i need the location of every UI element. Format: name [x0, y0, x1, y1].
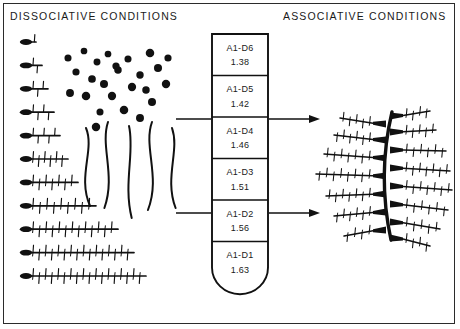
arm-bristle	[421, 144, 422, 150]
arm-bristle	[357, 208, 358, 214]
arm-head	[373, 209, 386, 216]
arm-bristle	[406, 109, 407, 115]
arm-bristle	[344, 130, 345, 136]
arm-head	[390, 183, 403, 190]
arm-bristle	[407, 199, 408, 205]
arm-bristle	[435, 183, 436, 189]
rod-side-projection	[46, 175, 47, 182]
rod-side-projection	[62, 159, 63, 166]
arm-bristle	[341, 169, 342, 175]
rod-side-projection	[85, 222, 86, 229]
arm-bristle	[407, 144, 408, 150]
smooth-filament-group	[85, 122, 175, 218]
arm-bristle	[357, 114, 358, 120]
rod-side-projection	[82, 206, 83, 213]
rod-side-projection	[45, 152, 46, 159]
arm-bristle	[422, 220, 423, 226]
arm-bristle	[370, 207, 371, 213]
rod-side-projection	[127, 253, 128, 260]
arm-head	[373, 121, 386, 128]
monomer-dot	[82, 92, 91, 101]
arm-bristle	[447, 165, 448, 171]
rod-side-projection	[33, 269, 34, 276]
rod-side-projection	[61, 198, 62, 205]
heading-dissociative: DISSOCIATIVE CONDITIONS	[10, 10, 178, 22]
monomer-dot	[154, 64, 162, 72]
tube-fraction-label: A1-D3	[226, 167, 253, 177]
arm-bristle	[342, 149, 343, 155]
subunit-rod	[20, 35, 36, 45]
rod-side-projection	[77, 253, 78, 260]
monomer-dot	[100, 80, 108, 88]
rod-side-projection	[78, 230, 79, 237]
aggregate-arm	[390, 234, 430, 252]
rod-side-projection	[44, 128, 45, 135]
arm-bristle	[327, 168, 328, 174]
rod-side-projection	[37, 66, 38, 73]
rod-side-projection	[56, 152, 57, 159]
aggregate-arm	[316, 168, 386, 182]
arm-bristle	[335, 196, 336, 202]
assembled-filament-aggregate	[316, 106, 452, 251]
arm-bristle	[362, 233, 363, 239]
arm-bristle	[370, 117, 371, 123]
arm-bristle	[413, 114, 414, 120]
rod-side-projection	[102, 276, 103, 283]
arm-bristle	[328, 148, 329, 154]
subunit-rod	[20, 245, 134, 260]
rod-side-projection	[38, 136, 39, 143]
aggregate-arm	[390, 124, 436, 137]
rod-side-projection	[98, 222, 99, 229]
arm-bristle	[356, 189, 357, 195]
rod-side-projection	[51, 253, 52, 260]
rod-side-projection	[112, 222, 113, 229]
monomer-dot	[88, 75, 96, 83]
arm-bristle	[334, 155, 335, 161]
density-gradient-tube: A1-D61.38A1-D51.42A1-D41.46A1-D31.51A1-D…	[212, 34, 268, 294]
arm-bristle	[362, 157, 363, 163]
rod-side-projection	[33, 128, 34, 135]
monomer-dot	[162, 80, 170, 88]
arm-bristle	[449, 184, 450, 190]
rod-side-projection	[104, 230, 105, 237]
rod-side-projection	[64, 253, 65, 260]
arm-bristle	[349, 195, 350, 201]
arm-bristle	[362, 175, 363, 181]
arm-bristle	[420, 163, 421, 169]
arm-bristle	[413, 242, 414, 248]
arm-bristle	[362, 195, 363, 201]
arm-bristle	[356, 150, 357, 156]
rod-side-projection	[76, 276, 77, 283]
rod-side-projection	[71, 245, 72, 252]
aggregate-arm	[340, 112, 386, 128]
rod-side-projection	[108, 269, 109, 276]
monomer-dot	[164, 54, 171, 61]
rod-side-projection	[59, 222, 60, 229]
rod-side-projection	[55, 128, 56, 135]
monomer-dot	[136, 114, 144, 122]
arm-head	[373, 137, 386, 144]
tube-fraction-density: 1.51	[231, 182, 250, 192]
monomer-dot	[136, 71, 143, 78]
arm-bristle	[429, 208, 430, 214]
arm-bristle	[370, 151, 371, 157]
arm-bristle	[363, 138, 364, 144]
arm-bristle	[344, 209, 345, 215]
aggregate-arm	[326, 188, 386, 202]
arm-shaft	[334, 212, 373, 216]
arm-head	[390, 147, 403, 154]
rod-side-projection	[39, 253, 40, 260]
rod-side-projection	[33, 198, 34, 205]
monomer-dot	[72, 68, 79, 75]
arm-bristle	[420, 106, 421, 112]
rod-side-projection	[139, 276, 140, 283]
aggregate-arm	[390, 162, 450, 176]
aggregate-arm	[390, 144, 446, 157]
subunit-rod	[20, 81, 48, 96]
arm-bristle	[428, 227, 429, 233]
subunit-rod	[20, 198, 96, 213]
subunit-rod	[20, 222, 118, 237]
monomer-dot	[81, 48, 88, 55]
rod-side-projection	[52, 183, 53, 190]
arm-shaft	[403, 150, 446, 151]
